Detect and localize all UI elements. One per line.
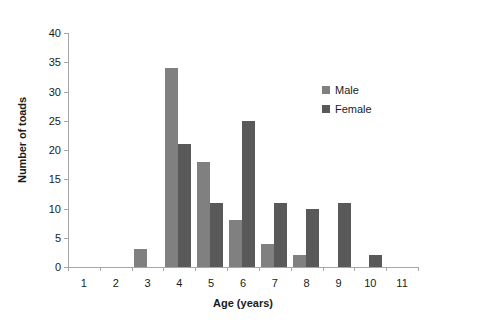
bar xyxy=(134,249,147,267)
x-tick-label: 9 xyxy=(335,277,341,289)
chart-legend: MaleFemale xyxy=(322,80,372,118)
y-tick-mark xyxy=(64,150,68,151)
x-tick-label: 10 xyxy=(364,277,376,289)
y-tick-mark xyxy=(64,121,68,122)
y-tick-mark xyxy=(64,238,68,239)
x-tick-mark xyxy=(354,267,355,271)
legend-item: Female xyxy=(322,99,372,118)
x-tick-label: 8 xyxy=(304,277,310,289)
bar xyxy=(210,203,223,267)
bar xyxy=(229,220,242,267)
x-tick-mark xyxy=(100,267,101,271)
x-tick-mark xyxy=(323,267,324,271)
y-tick-label: 35 xyxy=(49,56,61,68)
y-tick-label: 0 xyxy=(55,261,61,273)
y-tick-mark xyxy=(64,62,68,63)
x-tick-label: 11 xyxy=(396,277,407,289)
bar xyxy=(197,162,210,267)
x-tick-label: 3 xyxy=(144,277,150,289)
y-axis-title: Number of toads xyxy=(8,0,36,280)
bar xyxy=(338,203,351,267)
x-axis-line xyxy=(68,267,419,268)
x-tick-mark xyxy=(227,267,228,271)
legend-swatch-icon xyxy=(322,105,330,113)
y-tick-label: 20 xyxy=(49,144,61,156)
x-tick-mark xyxy=(68,267,69,271)
y-tick-label: 15 xyxy=(49,173,61,185)
y-tick-mark xyxy=(64,33,68,34)
bar xyxy=(261,244,274,267)
bar xyxy=(306,209,319,268)
x-tick-mark xyxy=(418,267,419,271)
legend-label: Female xyxy=(335,103,372,115)
y-tick-mark xyxy=(64,209,68,210)
y-tick-mark xyxy=(64,179,68,180)
bar xyxy=(369,255,382,267)
x-tick-label: 1 xyxy=(81,277,87,289)
x-tick-mark xyxy=(386,267,387,271)
x-tick-label: 7 xyxy=(272,277,278,289)
x-tick-mark xyxy=(132,267,133,271)
bar xyxy=(293,255,306,267)
bar xyxy=(178,144,191,267)
x-tick-label: 6 xyxy=(240,277,246,289)
legend-item: Male xyxy=(322,80,372,99)
legend-label: Male xyxy=(335,84,359,96)
x-tick-mark xyxy=(291,267,292,271)
plot-area: 0510152025303540 1234567891011 xyxy=(68,33,418,267)
bar-chart: Number of toads 0510152025303540 1234567… xyxy=(0,0,478,323)
bar xyxy=(242,121,255,267)
y-tick-label: 10 xyxy=(49,203,61,215)
x-tick-mark xyxy=(259,267,260,271)
bar xyxy=(274,203,287,267)
y-tick-label: 25 xyxy=(49,115,61,127)
y-tick-mark xyxy=(64,92,68,93)
y-tick-label: 5 xyxy=(55,232,61,244)
x-tick-label: 4 xyxy=(176,277,182,289)
bar xyxy=(165,68,178,267)
y-tick-label: 40 xyxy=(49,27,61,39)
x-tick-label: 5 xyxy=(208,277,214,289)
y-tick-label: 30 xyxy=(49,86,61,98)
x-tick-label: 2 xyxy=(113,277,119,289)
x-tick-mark xyxy=(163,267,164,271)
legend-swatch-icon xyxy=(322,86,330,94)
y-axis-title-text: Number of toads xyxy=(16,97,28,183)
x-axis-title: Age (years) xyxy=(68,297,418,309)
x-tick-mark xyxy=(195,267,196,271)
